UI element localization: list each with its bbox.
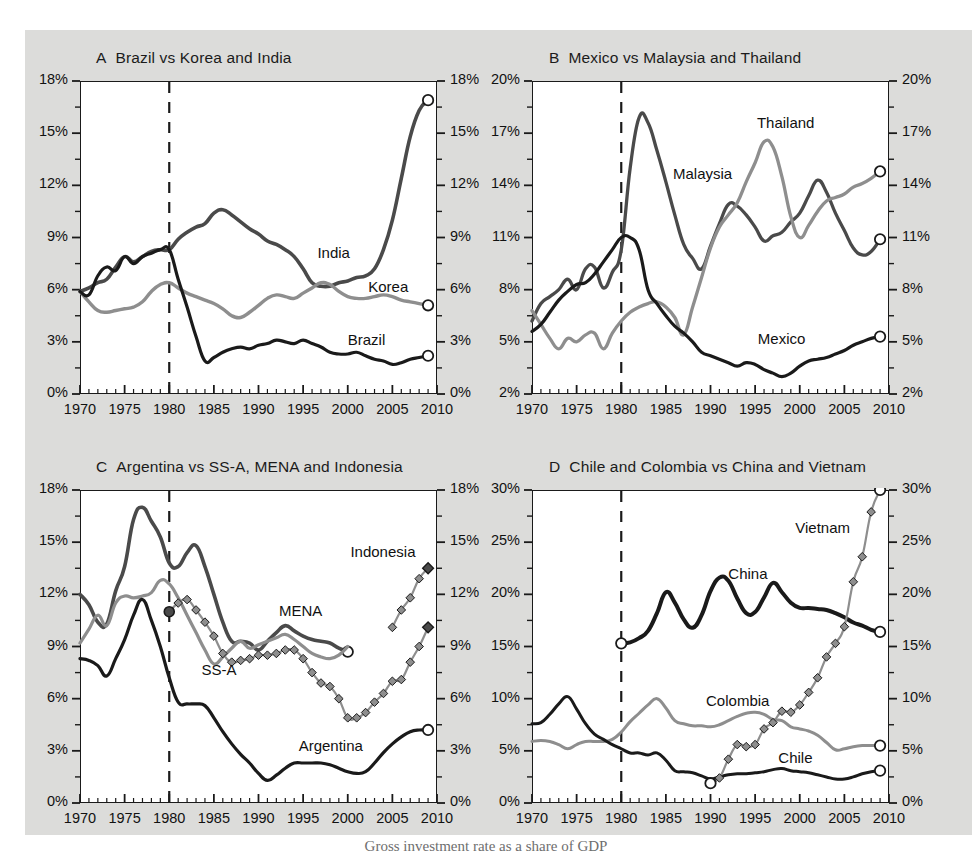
figure-page: ABrazil vs Korea and India0%0%3%3%6%6%9%… bbox=[0, 0, 972, 865]
series-marker-diamond bbox=[813, 674, 822, 683]
panel-d-ytick-label-left: 0% bbox=[462, 793, 520, 809]
panel-d-ytick-label-right: 15% bbox=[902, 637, 960, 653]
panel-d-ytick-label-right: 30% bbox=[902, 480, 960, 496]
panel-d-ytick-label-left: 10% bbox=[462, 689, 520, 705]
panel-d-ytick-label-right: 20% bbox=[902, 584, 960, 600]
series-marker-diamond bbox=[840, 622, 849, 631]
series-endpoint-open-circle bbox=[616, 638, 626, 648]
panel-d-ytick-label-left: 25% bbox=[462, 532, 520, 548]
series-line bbox=[532, 696, 880, 779]
panel-d-ytick-label-left: 20% bbox=[462, 584, 520, 600]
series-marker-diamond bbox=[822, 653, 831, 662]
series-endpoint-open-circle bbox=[875, 740, 885, 750]
panel-d-ytick-label-right: 0% bbox=[902, 793, 960, 809]
series-label-china: China bbox=[728, 565, 767, 582]
series-endpoint-open-circle bbox=[875, 627, 885, 637]
series-endpoint-open-circle bbox=[875, 765, 885, 775]
series-marker-diamond bbox=[867, 508, 876, 517]
panel-d-svg bbox=[0, 0, 972, 865]
panel-d-ytick-label-left: 30% bbox=[462, 480, 520, 496]
series-endpoint-open-circle bbox=[875, 485, 885, 495]
panel-d-ytick-label-right: 5% bbox=[902, 741, 960, 757]
panel-d-ytick-label-right: 25% bbox=[902, 532, 960, 548]
series-marker-diamond bbox=[849, 578, 858, 587]
series-marker-diamond bbox=[858, 552, 867, 561]
panel-d-ytick-label-left: 15% bbox=[462, 637, 520, 653]
series-label-vietnam: Vietnam bbox=[795, 519, 850, 536]
series-chile bbox=[532, 696, 885, 779]
series-endpoint-open-circle bbox=[705, 778, 715, 788]
panel-d-xtick-label: 2010 bbox=[859, 810, 919, 826]
panel-d: DChile and Colombia vs China and Vietnam… bbox=[0, 0, 972, 865]
panel-d-ytick-label-left: 5% bbox=[462, 741, 520, 757]
series-china bbox=[616, 576, 885, 648]
series-marker-diamond bbox=[787, 708, 796, 717]
panel-d-ytick-label-right: 10% bbox=[902, 689, 960, 705]
series-marker-diamond bbox=[742, 742, 751, 751]
series-marker-diamond bbox=[724, 755, 733, 764]
series-label-chile: Chile bbox=[778, 749, 812, 766]
series-label-colombia: Colombia bbox=[706, 692, 769, 709]
figure-caption: Gross investment rate as a share of GDP bbox=[0, 838, 972, 864]
